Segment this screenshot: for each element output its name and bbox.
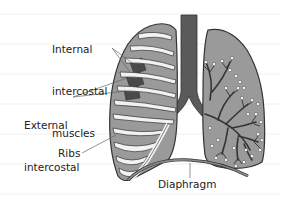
diagram: Internal intercostal muscles External in…: [0, 0, 281, 198]
left-lung-ribcage: [110, 24, 178, 181]
label-line: Internal: [52, 42, 107, 56]
label-diaphragm: Diaphragm: [158, 177, 216, 191]
label-external-intercostal: External intercostal muscles: [24, 90, 79, 198]
label-line: intercostal: [24, 160, 79, 174]
label-line: External: [24, 118, 79, 132]
right-lung: [203, 29, 265, 168]
label-ribs: Ribs: [58, 146, 80, 160]
